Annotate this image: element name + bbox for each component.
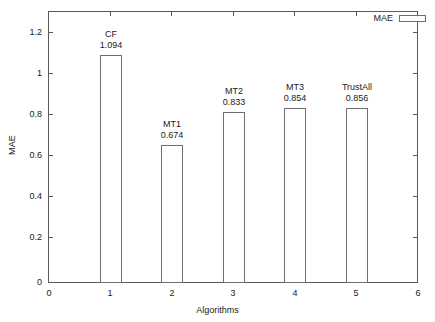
y-tick-0.2 (48, 237, 53, 238)
bar-caption-cf: CF 1.094 (76, 29, 146, 51)
y-tick-1.2 (48, 32, 53, 33)
legend-label-mae: MAE (373, 13, 393, 23)
x-tick-top-4 (294, 11, 295, 16)
y-tick-1.0 (48, 73, 53, 74)
bar-value-cf: 1.094 (76, 40, 146, 51)
y-tick-right-0.2 (413, 237, 418, 238)
bar-label-mt2: MT2 (199, 86, 269, 97)
y-tick-label-1.0: 1 (2, 69, 42, 78)
y-axis-title: MAE (7, 120, 17, 170)
bar-value-trustall: 0.856 (322, 93, 392, 104)
bar-value-mt3: 0.854 (260, 93, 330, 104)
chart-figure: 1.2 1 0.8 0.6 0.4 0.2 0 0 1 2 3 4 5 6 MA… (0, 0, 435, 322)
bar-caption-mt2: MT2 0.833 (199, 86, 269, 108)
x-tick-label-2: 2 (157, 289, 187, 298)
y-tick-right-0.4 (413, 196, 418, 197)
y-tick-label-0.2: 0.2 (2, 233, 42, 242)
bar-mt1 (161, 145, 183, 283)
y-tick-label-0.8: 0.8 (2, 110, 42, 119)
x-axis-title: Algorithms (0, 305, 435, 315)
x-tick-label-3: 3 (218, 289, 248, 298)
y-tick-0.6 (48, 155, 53, 156)
x-tick-top-2 (171, 11, 172, 16)
x-tick-top-3 (233, 11, 234, 16)
bar-mt3 (284, 108, 306, 283)
y-tick-0.4 (48, 196, 53, 197)
y-tick-label-0.4: 0.4 (2, 192, 42, 201)
x-tick-label-4: 4 (280, 289, 310, 298)
bar-value-mt2: 0.833 (199, 97, 269, 108)
y-tick-right-1.2 (413, 32, 418, 33)
bar-label-trustall: TrustAll (322, 82, 392, 93)
bar-caption-mt1: MT1 0.674 (137, 119, 207, 141)
x-tick-label-5: 5 (341, 289, 371, 298)
bar-trustall (346, 108, 368, 283)
y-tick-right-0.6 (413, 155, 418, 156)
legend: MAE (373, 13, 426, 23)
y-tick-right-0.8 (413, 114, 418, 115)
bar-mt2 (223, 112, 245, 283)
x-tick-label-0: 0 (34, 289, 64, 298)
bar-cf (100, 55, 122, 283)
x-tick-label-1: 1 (95, 289, 125, 298)
bar-caption-trustall: TrustAll 0.856 (322, 82, 392, 104)
y-tick-label-1.2: 1.2 (2, 28, 42, 37)
bar-value-mt1: 0.674 (137, 130, 207, 141)
bar-label-mt3: MT3 (260, 82, 330, 93)
bar-label-mt1: MT1 (137, 119, 207, 130)
y-tick-right-1.0 (413, 73, 418, 74)
legend-swatch-icon (399, 15, 426, 22)
bar-label-cf: CF (76, 29, 146, 40)
bar-caption-mt3: MT3 0.854 (260, 82, 330, 104)
x-tick-top-1 (110, 11, 111, 16)
y-tick-label-0: 0 (2, 278, 42, 287)
x-tick-top-5 (356, 11, 357, 16)
y-tick-0.8 (48, 114, 53, 115)
x-tick-label-6: 6 (403, 289, 433, 298)
